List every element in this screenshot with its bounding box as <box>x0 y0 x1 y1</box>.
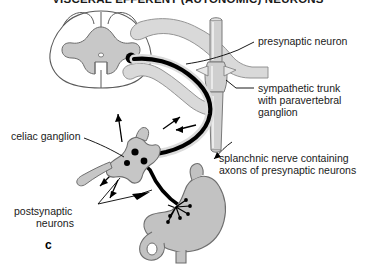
figure-container: VISCERAL EFFERENT (AUTONOMIC) NEURONS <box>0 0 376 267</box>
label-splanchnic-nerve-line2: axons of presynaptic neurons <box>219 164 356 177</box>
trunk-upper-segment <box>210 20 222 62</box>
terminal-dot-2 <box>188 204 192 208</box>
trunk-top-cap <box>210 18 222 20</box>
label-sympathetic-trunk-line3: ganglion <box>258 106 298 119</box>
postsynaptic-cell-body-3 <box>124 160 130 166</box>
label-postsynaptic-line1: postsynaptic <box>14 205 72 218</box>
leader-celiac-ganglion <box>84 138 124 157</box>
terminal-dot-5 <box>168 214 172 218</box>
label-celiac-ganglion: celiac ganglion <box>11 130 80 143</box>
label-presynaptic-neuron: presynaptic neuron <box>258 35 347 48</box>
ramus-communicans-left <box>196 66 208 76</box>
terminal-dot-1 <box>184 198 188 202</box>
terminal-dot-6 <box>166 220 170 224</box>
label-splanchnic-nerve-line1: splanchnic nerve containing <box>219 152 349 165</box>
pylorus <box>176 250 186 263</box>
arrow-head-upright <box>172 117 180 124</box>
panel-letter-c: c <box>45 238 52 252</box>
duodenum-lumen <box>147 243 157 255</box>
label-sympathetic-trunk-line2: with paravertebral <box>258 94 341 107</box>
terminal-dot-4 <box>178 216 182 220</box>
leader-sympathetic-trunk <box>226 80 254 88</box>
arrow-head-left <box>176 126 183 133</box>
central-canal <box>98 53 103 57</box>
postsynaptic-cell-body-1 <box>131 148 138 155</box>
terminal-dot-3 <box>186 212 190 216</box>
connective-tissue-band <box>123 19 268 116</box>
label-sympathetic-trunk-line1: sympathetic trunk <box>258 82 340 95</box>
arrow-head-up <box>115 114 122 122</box>
celiac-ganglion-body <box>77 127 160 185</box>
label-postsynaptic-line2: neurons <box>14 217 96 230</box>
arrow-head-down <box>110 191 117 198</box>
postsynaptic-cell-body-2 <box>141 158 148 165</box>
